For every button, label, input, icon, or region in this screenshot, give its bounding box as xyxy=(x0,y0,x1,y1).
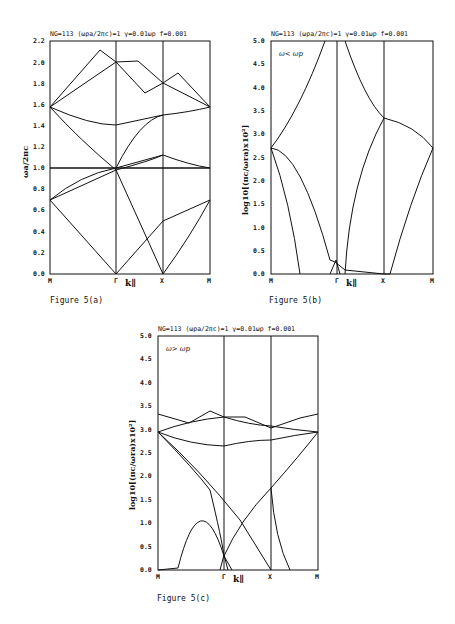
a-ytick-10: 2.0 xyxy=(33,59,45,67)
b-xtick-1: Γ xyxy=(335,277,339,285)
a-ytick-9: 1.8 xyxy=(33,80,45,88)
c-ytick-7: 3.5 xyxy=(140,402,152,410)
a-caption: Figure 5(a) xyxy=(50,296,103,305)
chart-b-header: NG=113 (ωpa/2πc)=1 γ=0.01ωp f=0.001 xyxy=(271,30,408,38)
c-ytick-6: 3.0 xyxy=(140,426,152,434)
c-ytick-9: 4.5 xyxy=(140,355,152,363)
b-ylabel: log10[(πc/ωra)x10²] xyxy=(240,125,250,215)
a-xlabel: k∥ xyxy=(125,278,136,288)
a-xtick-0: M xyxy=(48,277,52,285)
b-ytick-6: 3.0 xyxy=(253,130,265,138)
b-xtick-0: M xyxy=(269,277,273,285)
a-ytick-8: 1.6 xyxy=(33,101,45,109)
b-ytick-7: 3.5 xyxy=(253,107,265,115)
a-ytick-1: 0.2 xyxy=(33,249,45,257)
c-xtick-0: M xyxy=(156,573,160,581)
c-ytick-0: 0.0 xyxy=(140,566,152,574)
b-ytick-0: 0.0 xyxy=(253,270,265,278)
a-ytick-0: 0.0 xyxy=(33,270,45,278)
a-xtick-3: M xyxy=(207,277,211,285)
a-ytick-4: 0.8 xyxy=(33,185,45,193)
b-ytick-5: 2.5 xyxy=(253,154,265,162)
a-ytick-7: 1.4 xyxy=(33,122,45,130)
b-ytick-2: 1.0 xyxy=(253,224,265,232)
c-caption: Figure 5(c) xyxy=(157,594,210,603)
a-ytick-11: 2.2 xyxy=(33,37,45,45)
c-ytick-4: 2.0 xyxy=(140,472,152,480)
b-inset: ω< ωp xyxy=(279,50,303,58)
b-xlabel: k∥ xyxy=(346,278,357,288)
a-xtick-2: X xyxy=(160,277,164,285)
b-ytick-10: 5.0 xyxy=(253,37,265,45)
c-xtick-3: M xyxy=(315,573,319,581)
b-ytick-1: 0.5 xyxy=(253,247,265,255)
c-xtick-1: Γ xyxy=(222,573,226,581)
a-ytick-2: 0.4 xyxy=(33,228,45,236)
chart-c-header: NG=113 (ωpa/2πc)=1 γ=0.01ωp f=0.001 xyxy=(158,325,295,333)
c-xlabel: k∥ xyxy=(233,574,244,584)
b-ytick-9: 4.5 xyxy=(253,60,265,68)
c-ytick-5: 2.5 xyxy=(140,449,152,457)
a-ytick-3: 0.6 xyxy=(33,206,45,214)
b-xtick-3: M xyxy=(430,277,434,285)
b-xtick-2: X xyxy=(381,277,385,285)
chart-a-plot xyxy=(0,0,455,624)
a-ytick-5: 1.0 xyxy=(33,164,45,172)
b-ytick-4: 2.0 xyxy=(253,177,265,185)
c-ytick-8: 4.0 xyxy=(140,379,152,387)
a-xtick-1: Γ xyxy=(114,277,118,285)
c-ylabel: log10[(πc/ωra)x10²] xyxy=(127,420,137,510)
b-ytick-3: 1.5 xyxy=(253,200,265,208)
c-ytick-1: 0.5 xyxy=(140,543,152,551)
b-ytick-8: 4.0 xyxy=(253,84,265,92)
c-xtick-2: X xyxy=(268,573,272,581)
c-inset: ω> ωp xyxy=(166,345,190,353)
a-ylabel: ωa/2πc xyxy=(20,146,30,178)
c-ytick-2: 1.0 xyxy=(140,519,152,527)
c-ytick-3: 1.5 xyxy=(140,496,152,504)
a-ytick-6: 1.2 xyxy=(33,143,45,151)
c-ytick-10: 5.0 xyxy=(140,332,152,340)
b-caption: Figure 5(b) xyxy=(269,296,322,305)
